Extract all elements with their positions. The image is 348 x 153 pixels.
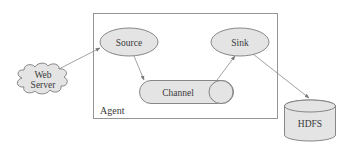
sink-label: Sink <box>231 38 249 48</box>
channel-node: Channel <box>140 81 234 104</box>
edge-source-to-channel <box>134 56 144 80</box>
channel-label: Channel <box>162 88 194 98</box>
hdfs-label: HDFS <box>298 119 322 129</box>
source-node: Source <box>100 28 158 56</box>
web-server-label-line2: Server <box>31 80 57 90</box>
channel-end-cap <box>209 81 233 104</box>
agent-label: Agent <box>100 105 125 116</box>
flume-architecture-diagram: Agent Web Server Source Sink Channel HDF… <box>0 0 348 153</box>
edge-sink-to-hdfs <box>253 54 309 98</box>
source-label: Source <box>116 38 142 48</box>
sink-node: Sink <box>211 28 269 56</box>
web-server-node: Web Server <box>17 63 67 94</box>
web-server-label-line1: Web <box>34 70 51 80</box>
hdfs-node: HDFS <box>285 100 336 141</box>
edge-channel-to-sink <box>217 56 235 80</box>
